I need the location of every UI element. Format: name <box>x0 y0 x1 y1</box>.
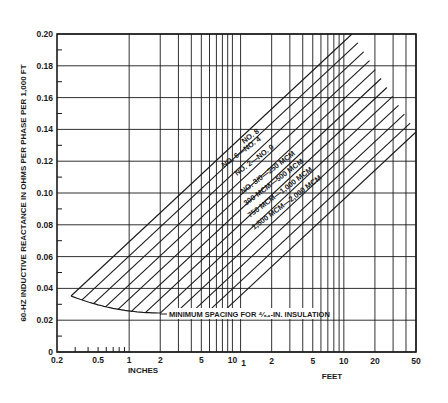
y-axis-title: 60-HZ INDUCTIVE REACTANCE IN OHMS PER PH… <box>19 64 28 321</box>
x-tick-label-feet: 10 <box>339 356 349 366</box>
y-tick-label: 0.12 <box>36 156 53 166</box>
x-tick-label-feet: 1 <box>241 358 246 368</box>
y-tick-label: 0.04 <box>36 283 53 293</box>
curve-band <box>71 34 416 313</box>
y-tick-label: 0.02 <box>36 315 53 325</box>
y-tick-label: 0.16 <box>36 93 53 103</box>
y-tick-label: 0.18 <box>36 61 53 71</box>
x-axis-title-inches: INCHES <box>128 366 159 375</box>
curve-no-6 <box>82 43 358 300</box>
x-tick-label-inches: 1 <box>127 355 132 365</box>
x-tick-label-feet: 2 <box>269 356 274 366</box>
min-spacing-label: MINIMUM SPACING FOR ⁴⁄₆₄-IN. INSULATION <box>169 310 330 319</box>
curve-1-000-mcm <box>191 114 405 313</box>
y-tick-label: 0.06 <box>36 252 53 262</box>
x-axis-ticks: 0.20.512510125102050 <box>51 347 421 368</box>
x-tick-label-inches: 0.2 <box>51 355 63 365</box>
y-tick-label: 0.14 <box>36 124 53 134</box>
reactance-chart: 00.020.040.060.080.100.120.140.160.180.2… <box>0 0 448 403</box>
y-tick-label: 0.20 <box>36 29 53 39</box>
y-tick-label: 0.10 <box>36 188 53 198</box>
y-tick-label: 0.08 <box>36 220 53 230</box>
x-tick-label-feet: 20 <box>370 356 380 366</box>
x-axis-title-feet: FEET <box>322 372 343 381</box>
x-tick-label-feet: 5 <box>310 356 315 366</box>
curve-750-mcm <box>176 105 399 313</box>
x-tick-label-feet: 50 <box>411 356 421 366</box>
curve-no-4 <box>94 52 364 304</box>
x-tick-label-inches: 5 <box>199 355 204 365</box>
x-tick-label-inches: 10 <box>228 355 238 365</box>
x-tick-label-inches: 0.5 <box>92 355 104 365</box>
x-tick-label-inches: 2 <box>158 355 163 365</box>
